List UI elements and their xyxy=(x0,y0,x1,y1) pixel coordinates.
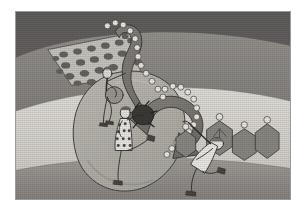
illustration-frame xyxy=(15,11,291,200)
scene-svg xyxy=(16,12,290,199)
tone-overlay xyxy=(16,12,290,199)
illustration-canvas xyxy=(16,12,290,199)
